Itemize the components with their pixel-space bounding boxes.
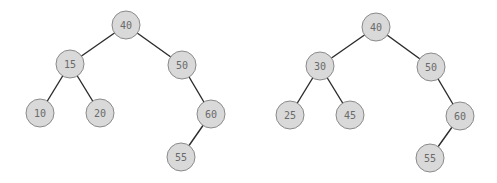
edges-layer: [40, 25, 460, 158]
node-label: 60: [454, 111, 466, 122]
tree-diagram: 4015501020605540305025456055: [0, 0, 497, 183]
tree-right-edges: [290, 27, 460, 158]
tree-node: 60: [446, 102, 474, 130]
node-label: 55: [424, 153, 436, 164]
node-label: 50: [176, 60, 188, 71]
tree-node: 50: [417, 53, 445, 81]
tree-node: 40: [112, 11, 140, 39]
tree-node: 20: [86, 99, 114, 127]
nodes-layer: 4015501020605540305025456055: [26, 11, 474, 172]
node-label: 60: [205, 109, 217, 120]
tree-node: 10: [26, 99, 54, 127]
node-label: 55: [175, 152, 187, 163]
tree-node: 55: [416, 144, 444, 172]
tree-node: 15: [56, 50, 84, 78]
node-label: 40: [370, 22, 382, 33]
node-label: 10: [34, 108, 46, 119]
tree-left: 40155010206055: [26, 11, 225, 171]
tree-node: 25: [276, 101, 304, 129]
node-label: 20: [94, 108, 106, 119]
node-label: 45: [344, 110, 356, 121]
tree-left-edges: [40, 25, 211, 157]
tree-node: 50: [168, 51, 196, 79]
node-label: 40: [120, 20, 132, 31]
tree-right: 40305025456055: [276, 13, 474, 172]
tree-node: 55: [167, 143, 195, 171]
node-label: 50: [425, 62, 437, 73]
node-label: 30: [314, 61, 326, 72]
tree-node: 60: [197, 100, 225, 128]
tree-node: 45: [336, 101, 364, 129]
tree-node: 30: [306, 52, 334, 80]
node-label: 15: [64, 59, 76, 70]
node-label: 25: [284, 110, 296, 121]
tree-node: 40: [362, 13, 390, 41]
